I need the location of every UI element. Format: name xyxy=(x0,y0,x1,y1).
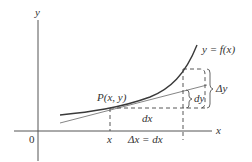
origin-label: 0 xyxy=(29,133,35,145)
dx-label: dx xyxy=(142,112,153,124)
function-curve xyxy=(60,45,197,115)
y-axis-label: y xyxy=(34,6,40,18)
delta-y-label: Δy xyxy=(215,82,227,94)
differential-diagram: y x 0 P(x, y) y = f(x) x dx Δx = dx dy Δ… xyxy=(0,0,252,162)
dy-brace xyxy=(186,90,192,108)
point-p-label: P(x, y) xyxy=(96,91,127,104)
delta-x-label: Δx = dx xyxy=(127,133,163,145)
delta-y-brace xyxy=(207,69,213,108)
x-axis-label: x xyxy=(215,124,221,136)
dy-label: dy xyxy=(194,92,205,104)
x-tick-label: x xyxy=(106,133,112,145)
curve-label: y = f(x) xyxy=(201,43,235,56)
tangent-line xyxy=(60,85,207,123)
